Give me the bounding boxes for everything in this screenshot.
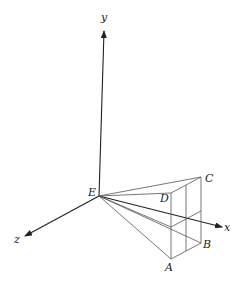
label-z: z: [13, 233, 20, 246]
z-axis: [25, 196, 99, 236]
label-y: y: [100, 11, 108, 24]
y-axis: [99, 31, 104, 196]
perspective-diagram: y x z E C D B A: [0, 0, 239, 288]
label-C: C: [205, 172, 214, 185]
label-D: D: [159, 192, 169, 205]
label-B: B: [202, 238, 211, 251]
label-x: x: [224, 221, 231, 234]
label-A: A: [164, 261, 173, 274]
label-E: E: [87, 186, 96, 199]
